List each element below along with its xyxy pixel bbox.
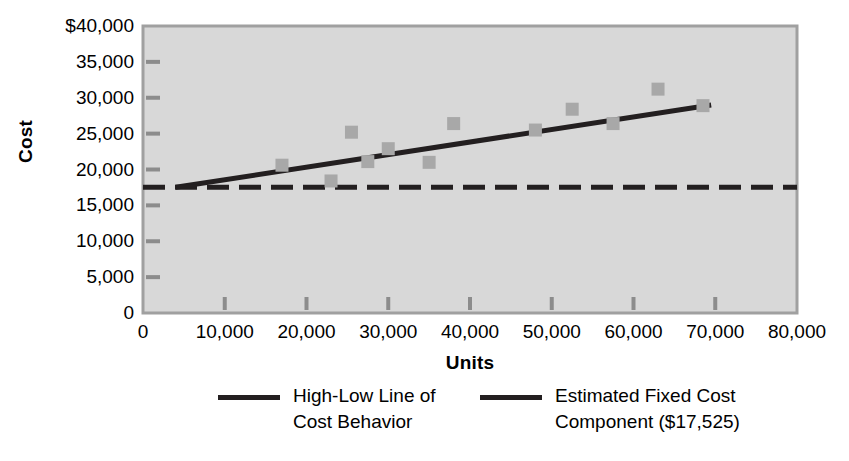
data-point-marker	[696, 99, 709, 112]
data-point-marker	[423, 156, 436, 169]
x-axis-tick-label: 60,000	[604, 322, 662, 341]
data-point-marker	[447, 117, 460, 130]
data-point-marker	[652, 83, 665, 96]
legend-item-label: High-Low Line of Cost Behavior	[293, 383, 436, 435]
chart-figure: Cost $40,00035,00030,00025,00020,00015,0…	[0, 0, 849, 461]
x-axis-tick-label: 70,000	[686, 322, 744, 341]
x-axis-tick-label: 50,000	[523, 322, 581, 341]
data-point-marker	[529, 124, 542, 137]
x-axis-tick-label: 0	[138, 322, 149, 341]
data-point-marker	[382, 142, 395, 155]
x-axis-tick-label: 40,000	[441, 322, 499, 341]
data-point-marker	[607, 117, 620, 130]
data-point-marker	[566, 103, 579, 116]
data-point-marker	[275, 159, 288, 172]
x-axis-tick-label: 20,000	[277, 322, 335, 341]
chart-legend: High-Low Line of Cost Behavior Estimated…	[0, 383, 849, 455]
legend-item-fixed-cost: Estimated Fixed Cost Component ($17,525)	[480, 383, 740, 435]
legend-item-label: Estimated Fixed Cost Component ($17,525)	[555, 383, 740, 435]
solid-line-swatch-icon	[218, 395, 280, 400]
plot-area-background	[143, 26, 797, 313]
x-axis-tick-label: 10,000	[196, 322, 254, 341]
x-axis-title: Units	[143, 352, 797, 374]
data-point-marker	[361, 155, 374, 168]
data-point-marker	[325, 174, 338, 187]
legend-item-high-low-line: High-Low Line of Cost Behavior	[218, 383, 436, 435]
solid-line-swatch-icon	[480, 395, 542, 400]
data-point-marker	[345, 126, 358, 139]
x-axis-tick-label: 30,000	[359, 322, 417, 341]
x-axis-tick-label: 80,000	[768, 322, 826, 341]
